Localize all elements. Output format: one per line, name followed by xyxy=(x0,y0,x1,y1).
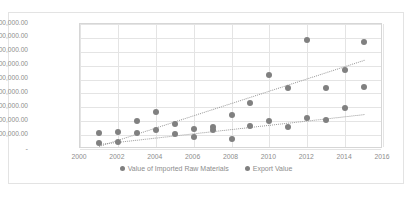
y-axis-tick-label: 5,000,000.00 xyxy=(0,75,28,82)
gridline-horizontal xyxy=(80,38,381,39)
legend-marker-icon xyxy=(120,166,125,171)
x-axis-tick-label: 2002 xyxy=(97,154,137,161)
data-point xyxy=(361,39,367,45)
legend-item[interactable]: Export Value xyxy=(245,165,293,172)
data-point xyxy=(229,136,235,142)
gridline-horizontal xyxy=(80,121,381,122)
y-axis-tick-label: 4,000,000.00 xyxy=(0,89,28,96)
data-point xyxy=(96,140,102,146)
legend-item[interactable]: Value of Imported Raw Materials xyxy=(120,165,229,172)
data-point xyxy=(342,105,348,111)
legend-label: Export Value xyxy=(253,165,293,172)
chart-container: -1,000,000.002,000,000.003,000,000.004,0… xyxy=(8,12,404,184)
gridline-horizontal xyxy=(80,149,381,150)
data-point xyxy=(172,131,178,137)
gridline-horizontal xyxy=(80,66,381,67)
data-point xyxy=(247,123,253,129)
data-point xyxy=(361,84,367,90)
data-point xyxy=(134,130,140,136)
gridline-vertical xyxy=(80,24,81,147)
data-point xyxy=(134,118,140,124)
data-point xyxy=(115,129,121,135)
data-point xyxy=(304,115,310,121)
legend-marker-icon xyxy=(245,166,250,171)
y-axis-tick-label: 8,000,000.00 xyxy=(0,33,28,40)
plot-area xyxy=(79,23,382,148)
y-axis-tick-label: 1,000,000.00 xyxy=(0,131,28,138)
data-point xyxy=(191,126,197,132)
gridline-horizontal xyxy=(80,52,381,53)
data-point xyxy=(115,139,121,145)
x-axis-tick-label: 2014 xyxy=(324,154,364,161)
data-point xyxy=(304,37,310,43)
y-axis-tick-label: 3,000,000.00 xyxy=(0,103,28,110)
y-axis-tick-label: 6,000,000.00 xyxy=(0,61,28,68)
data-point xyxy=(210,127,216,133)
gridline-horizontal xyxy=(80,80,381,81)
y-axis-tick-label: 2,000,000.00 xyxy=(0,117,28,124)
data-point xyxy=(285,85,291,91)
x-axis-tick-label: 2004 xyxy=(135,154,175,161)
gridline-horizontal xyxy=(80,93,381,94)
x-axis-tick-label: 2008 xyxy=(211,154,251,161)
data-point xyxy=(323,85,329,91)
x-axis-tick-label: 2006 xyxy=(173,154,213,161)
y-axis-tick-label: - xyxy=(0,145,28,153)
data-point xyxy=(342,67,348,73)
x-axis-tick-label: 2000 xyxy=(59,154,99,161)
data-point xyxy=(266,72,272,78)
gridline-vertical xyxy=(383,24,384,147)
data-point xyxy=(285,124,291,130)
data-point xyxy=(323,117,329,123)
data-point xyxy=(172,121,178,127)
data-point xyxy=(191,134,197,140)
chart-legend: Value of Imported Raw MaterialsExport Va… xyxy=(9,165,403,172)
y-axis-tick-label: 9,000,000.00 xyxy=(0,20,28,27)
x-axis-tick-label: 2016 xyxy=(362,154,402,161)
x-axis-tick-label: 2010 xyxy=(248,154,288,161)
data-point xyxy=(153,127,159,133)
x-axis-tick-label: 2012 xyxy=(286,154,326,161)
legend-label: Value of Imported Raw Materials xyxy=(128,165,229,172)
y-axis-tick-label: 7,000,000.00 xyxy=(0,47,28,54)
data-point xyxy=(96,130,102,136)
data-point xyxy=(153,109,159,115)
data-point xyxy=(229,112,235,118)
data-point xyxy=(266,118,272,124)
data-point xyxy=(247,100,253,106)
gridline-vertical xyxy=(345,24,346,147)
gridline-vertical xyxy=(269,24,270,147)
gridline-horizontal xyxy=(80,107,381,108)
gridline-horizontal xyxy=(80,24,381,25)
